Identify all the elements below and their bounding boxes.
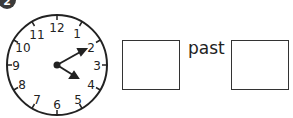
clock-number-4: 4 bbox=[87, 78, 95, 92]
clock-number-8: 8 bbox=[18, 78, 26, 92]
clock-number-2: 2 bbox=[87, 41, 95, 55]
clock-number-5: 5 bbox=[74, 93, 82, 107]
clock-number-9: 9 bbox=[12, 59, 20, 73]
clock-number-6: 6 bbox=[53, 98, 61, 112]
clock-number-10: 10 bbox=[15, 41, 30, 55]
clock-center bbox=[54, 62, 61, 69]
answer-box-minutes[interactable] bbox=[122, 40, 180, 90]
answer-box-hour[interactable] bbox=[231, 40, 289, 90]
analog-clock: 12 1 2 3 4 5 6 7 8 9 10 11 bbox=[0, 8, 116, 118]
clock-number-1: 1 bbox=[73, 27, 81, 41]
clock-number-12: 12 bbox=[49, 21, 64, 35]
clock-number-3: 3 bbox=[93, 59, 101, 73]
clock-number-11: 11 bbox=[29, 28, 44, 42]
clock-number-7: 7 bbox=[33, 93, 41, 107]
past-label: past bbox=[188, 38, 225, 58]
